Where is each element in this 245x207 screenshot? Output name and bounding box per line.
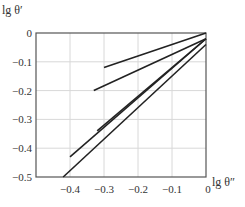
x-tick-label: −0.3 — [94, 183, 114, 195]
x-tick-label: 0 — [205, 183, 211, 195]
y-tick-label: −0.4 — [12, 142, 32, 154]
y-tick-label: −0.3 — [12, 113, 32, 125]
y-axis-label: lg θ′ — [2, 3, 23, 17]
x-tick-label: −0.4 — [60, 183, 80, 195]
data-series — [63, 33, 206, 177]
axes — [36, 33, 206, 177]
plot-frame — [36, 33, 206, 177]
y-tick-label: 0 — [27, 27, 33, 39]
grid-lines — [36, 33, 206, 177]
chart: −0.4−0.3−0.2−0.100−0.1−0.2−0.3−0.4−0.5 l… — [0, 0, 245, 207]
x-tick-label: −0.2 — [128, 183, 148, 195]
series-line-5 — [63, 45, 206, 177]
y-tick-label: −0.2 — [12, 85, 32, 97]
y-tick-label: −0.5 — [12, 171, 32, 183]
tick-labels: −0.4−0.3−0.2−0.100−0.1−0.2−0.3−0.4−0.5 — [12, 27, 211, 195]
x-axis-label: lg θ″ — [212, 175, 235, 189]
y-tick-label: −0.1 — [12, 56, 32, 68]
x-tick-label: −0.1 — [162, 183, 182, 195]
